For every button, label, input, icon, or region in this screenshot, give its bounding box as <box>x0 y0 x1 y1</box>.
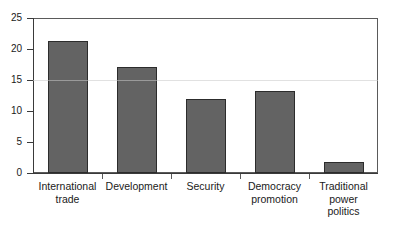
category-label-line: Security <box>171 180 240 193</box>
x-axis-category-label: Traditionalpowerpolitics <box>309 180 378 218</box>
x-axis-line <box>33 173 378 174</box>
bar <box>324 162 364 173</box>
y-axis-tick-label: 15 <box>0 75 22 85</box>
y-axis-tick <box>27 111 33 112</box>
bar <box>255 91 295 173</box>
x-axis-category-label: Security <box>171 180 240 193</box>
category-label-line: Democracy <box>240 180 309 193</box>
x-axis-category-label: Democracypromotion <box>240 180 309 205</box>
x-axis-separator-tick <box>240 174 241 179</box>
bar <box>186 99 226 173</box>
category-label-line: politics <box>309 205 378 218</box>
y-axis-line <box>33 18 34 174</box>
y-axis-tick-label: 25 <box>0 13 22 23</box>
y-axis-tick-label: 10 <box>0 106 22 116</box>
x-axis-category-label: Development <box>102 180 171 193</box>
bar <box>48 41 88 173</box>
y-axis-tick <box>27 49 33 50</box>
y-axis-tick <box>27 142 33 143</box>
x-axis-separator-tick <box>102 174 103 179</box>
category-label-line: Development <box>102 180 171 193</box>
y-axis-tick-label: 5 <box>0 137 22 147</box>
bars-layer <box>33 18 378 173</box>
category-label-line: International <box>33 180 102 193</box>
bar <box>117 67 157 173</box>
x-axis-separator-tick <box>309 174 310 179</box>
y-axis-tick-label: 20 <box>0 44 22 54</box>
x-axis-category-label: Internationaltrade <box>33 180 102 205</box>
category-label-line: Traditional <box>309 180 378 193</box>
category-label-line: trade <box>33 193 102 206</box>
y-axis-tick-label: 0 <box>0 168 22 178</box>
y-axis-tick <box>27 80 33 81</box>
x-axis-separator-tick <box>171 174 172 179</box>
category-label-line: promotion <box>240 193 309 206</box>
y-axis-tick <box>27 18 33 19</box>
bar-chart: 0510152025 InternationaltradeDevelopment… <box>0 0 394 227</box>
category-label-line: power <box>309 193 378 206</box>
